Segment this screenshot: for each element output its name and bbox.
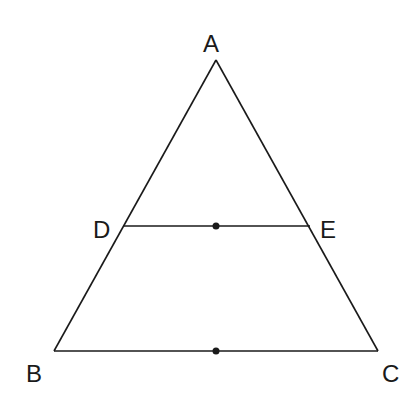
label-D: D (93, 216, 110, 243)
midpoint-de-dot (213, 223, 220, 230)
label-A: A (203, 30, 219, 57)
label-C: C (382, 360, 399, 387)
segment-AC (216, 60, 378, 351)
segment-AB (54, 60, 216, 351)
label-B: B (26, 360, 42, 387)
label-E: E (320, 216, 336, 243)
midpoint-bc-dot (213, 348, 220, 355)
triangle-diagram: A B C D E (0, 0, 419, 399)
